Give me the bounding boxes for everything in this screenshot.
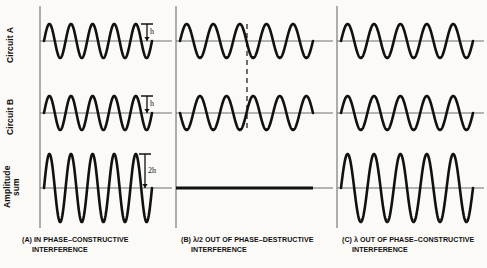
amplitude-label-2h-sum: 2h [148,166,156,175]
panel-a-caption-line-2: INTERFERENCE [22,245,172,255]
panel-b-caption-line-2: INTERFERENCE [181,245,341,255]
wave-interference-figure: Circuit A Circuit B Amplitude sum h h 2h… [0,0,487,268]
panel-c-caption: (C) λ OUT OF PHASE–CONSTRUCTIVE INTERFER… [342,235,487,255]
row-label-circuit-a: Circuit A [6,14,20,76]
interference-diagram-canvas [0,0,487,268]
panel-a-caption-line-1: (A) IN PHASE–CONSTRUCTIVE [22,236,128,244]
panel-c-caption-line-1: (C) λ OUT OF PHASE–CONSTRUCTIVE [342,236,474,244]
amplitude-label-h-circuit-b: h [150,99,154,108]
panel-c-caption-line-2: INTERFERENCE [342,245,487,255]
panel-a-caption: (A) IN PHASE–CONSTRUCTIVE INTERFERENCE [22,235,172,255]
panel-b-caption-line-1: (B) λ/2 OUT OF PHASE–DESTRUCTIVE [181,236,313,244]
row-label-amplitude-sum: Amplitude sum [3,152,23,222]
amplitude-label-h-circuit-a: h [150,27,154,36]
panel-b-caption: (B) λ/2 OUT OF PHASE–DESTRUCTIVE INTERFE… [181,235,341,255]
amplitude-sum-line-2: sum [11,178,21,196]
row-label-circuit-b: Circuit B [6,86,20,148]
